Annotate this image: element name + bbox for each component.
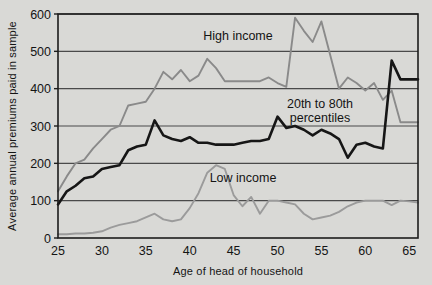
y-tick-label-500: 500 bbox=[30, 45, 51, 59]
x-tick-label-50: 50 bbox=[271, 244, 285, 258]
x-tick-label-45: 45 bbox=[227, 244, 241, 258]
series-label-high-income: High income bbox=[203, 29, 273, 43]
y-tick-label-300: 300 bbox=[30, 120, 51, 134]
chart-figure: 0100200300400500600 253035404550556065 A… bbox=[0, 0, 432, 285]
y-tick-label-600: 600 bbox=[30, 8, 51, 22]
x-axis-title: Age of head of household bbox=[173, 265, 303, 277]
x-tick-label-40: 40 bbox=[183, 244, 197, 258]
y-tick-label-0: 0 bbox=[44, 232, 51, 246]
x-tick-label-25: 25 bbox=[51, 244, 65, 258]
x-tick-label-65: 65 bbox=[402, 244, 416, 258]
y-tick-label-200: 200 bbox=[30, 157, 51, 171]
x-axis-ticks: 253035404550556065 bbox=[51, 244, 416, 258]
series-label-percentiles-line1: 20th to 80th bbox=[287, 97, 353, 111]
x-tick-label-55: 55 bbox=[314, 244, 328, 258]
series-label-low-income: Low income bbox=[210, 171, 277, 185]
x-tick-label-35: 35 bbox=[139, 244, 153, 258]
y-axis-title: Average annual premiums paid in sample bbox=[6, 21, 18, 231]
series-label-percentiles-line2: percentiles bbox=[290, 111, 350, 125]
x-tick-label-60: 60 bbox=[358, 244, 372, 258]
line-chart-svg: 0100200300400500600 253035404550556065 A… bbox=[0, 0, 432, 285]
x-tick-label-30: 30 bbox=[95, 244, 109, 258]
y-tick-label-400: 400 bbox=[30, 82, 51, 96]
y-tick-label-100: 100 bbox=[30, 194, 51, 208]
